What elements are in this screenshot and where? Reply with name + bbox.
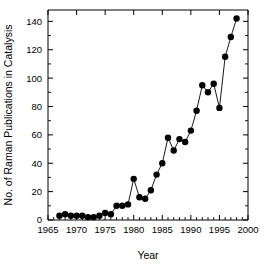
data-point: [153, 171, 159, 177]
data-point: [176, 136, 182, 142]
publications-line-chart: 19651970197519801985199019952000 0204060…: [0, 0, 267, 264]
data-point: [188, 127, 194, 133]
y-tick-label: 80: [31, 101, 42, 112]
x-tick-label: 1975: [95, 224, 116, 235]
data-point: [216, 105, 222, 111]
data-point: [171, 147, 177, 153]
chart-figure: 19651970197519801985199019952000 0204060…: [0, 0, 267, 264]
x-axis-title: Year: [137, 249, 159, 261]
data-point: [62, 211, 68, 217]
data-point: [136, 194, 142, 200]
x-tick-label: 1990: [180, 224, 201, 235]
y-tick-label: 120: [26, 44, 42, 55]
series-line: [59, 19, 236, 218]
data-point: [108, 211, 114, 217]
data-point: [199, 82, 205, 88]
data-point: [233, 15, 239, 21]
axis-spines: [48, 10, 248, 220]
data-point: [182, 139, 188, 145]
data-point: [85, 214, 91, 220]
x-axis-tick-labels: 19651970197519801985199019952000: [37, 224, 258, 235]
chart-tick-marks: [48, 10, 248, 220]
y-tick-label: 140: [26, 16, 42, 27]
y-tick-label: 40: [31, 158, 42, 169]
data-point: [131, 176, 137, 182]
x-tick-label: 2000: [237, 224, 258, 235]
data-point: [211, 81, 217, 87]
axis-frame-top-right: [48, 10, 248, 220]
data-point: [159, 160, 165, 166]
data-point: [205, 89, 211, 95]
y-axis-tick-labels: 020406080100120140: [26, 16, 42, 226]
data-point: [228, 34, 234, 40]
data-point: [142, 196, 148, 202]
y-tick-label: 60: [31, 129, 42, 140]
y-tick-label: 0: [37, 214, 42, 225]
data-point: [102, 210, 108, 216]
y-axis-title: No. of Raman Publications in Catalysis: [2, 25, 14, 206]
data-point: [125, 201, 131, 207]
data-series: [56, 15, 240, 220]
x-tick-label: 1965: [37, 224, 58, 235]
data-point: [165, 135, 171, 141]
data-point: [73, 213, 79, 219]
data-point: [113, 203, 119, 209]
x-tick-label: 1970: [66, 224, 87, 235]
chart-axes: [48, 10, 248, 220]
data-point: [222, 54, 228, 60]
data-point: [68, 213, 74, 219]
data-point: [119, 203, 125, 209]
data-point: [148, 187, 154, 193]
x-tick-label: 1985: [152, 224, 173, 235]
data-point: [56, 213, 62, 219]
data-point: [96, 213, 102, 219]
data-point: [193, 108, 199, 114]
x-tick-label: 1995: [209, 224, 230, 235]
data-point: [79, 213, 85, 219]
x-tick-label: 1980: [123, 224, 144, 235]
data-point: [91, 214, 97, 220]
y-tick-label: 100: [26, 73, 42, 84]
y-tick-label: 20: [31, 186, 42, 197]
